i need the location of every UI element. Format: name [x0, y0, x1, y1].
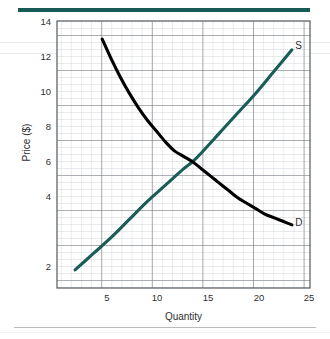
y-tick-label: 14 [29, 16, 51, 27]
y-axis-title: Price ($) [21, 108, 32, 178]
y-tick-label: 8 [29, 121, 51, 132]
demand-curve-label: D [295, 217, 302, 228]
y-tick-label: 12 [29, 51, 51, 62]
x-tick-label: 10 [145, 292, 169, 303]
y-tick-label: 6 [29, 156, 51, 167]
x-axis-title: Quantity [57, 311, 310, 322]
y-tick-label: 10 [29, 86, 51, 97]
y-tick-label: 4 [29, 191, 51, 202]
bottom-divider-rule [14, 327, 316, 328]
supply-demand-figure: 14 12 10 8 6 4 2 5 10 15 20 25 Price ($)… [0, 0, 330, 339]
x-tick-label: 20 [247, 292, 271, 303]
x-tick-label: 15 [196, 292, 220, 303]
supply-curve-label: S [295, 40, 302, 51]
y-tick-label: 2 [29, 261, 51, 272]
x-tick-label: 25 [297, 292, 321, 303]
grid-group [57, 21, 310, 288]
x-tick-label: 5 [95, 292, 119, 303]
